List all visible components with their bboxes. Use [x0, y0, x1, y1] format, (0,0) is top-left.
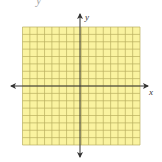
coordinate-plane: y y x [0, 0, 162, 162]
x-axis-label: x [148, 87, 153, 97]
clipped-top-text: y [35, 0, 42, 7]
y-axis-label: y [84, 12, 89, 22]
